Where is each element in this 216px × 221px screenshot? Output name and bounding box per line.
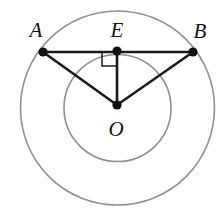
point-o	[112, 100, 121, 109]
label-e: E	[110, 18, 124, 42]
label-b: B	[194, 19, 207, 43]
geometry-figure: A E B O	[0, 0, 216, 221]
label-a: A	[28, 18, 43, 42]
point-b	[188, 47, 197, 56]
point-e	[112, 46, 121, 55]
point-a	[38, 47, 47, 56]
label-o: O	[108, 117, 123, 141]
geometry-canvas: A E B O	[0, 0, 216, 221]
